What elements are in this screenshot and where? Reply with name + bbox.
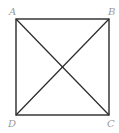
- vertex-label-a: A: [8, 6, 16, 17]
- vertex-label-d: D: [7, 118, 16, 129]
- vertex-label-c: C: [107, 118, 115, 129]
- square-diagram: A B C D: [0, 0, 119, 133]
- vertex-label-b: B: [107, 6, 115, 17]
